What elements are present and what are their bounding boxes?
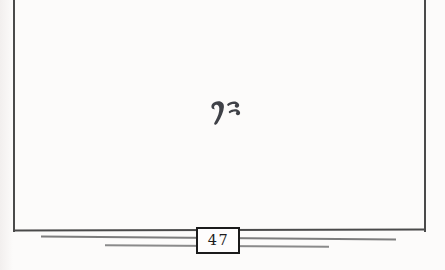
page-number-box: 47 [196, 227, 240, 254]
scanned-book-page: 47 [0, 0, 445, 270]
chapter-end-fleuron-icon [206, 98, 242, 128]
page-number: 47 [207, 233, 229, 248]
